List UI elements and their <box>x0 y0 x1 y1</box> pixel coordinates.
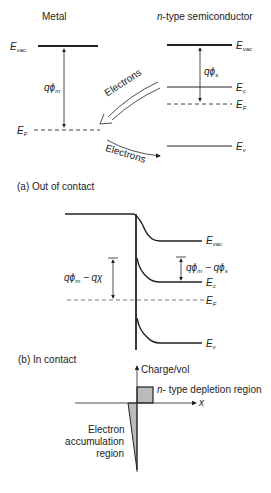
semi-ef-label: EF <box>236 100 246 111</box>
contact-evac-label: Evac <box>206 236 222 247</box>
semi-ev-label: Ev <box>236 142 246 153</box>
charge-axis-label: Charge/vol <box>141 365 189 375</box>
accumulation-label-line3: region <box>88 449 124 459</box>
semiconductor-title: n-type semiconductor <box>157 12 253 22</box>
barrier-height-label: qϕm − qχ <box>64 273 103 284</box>
caption-in-contact: (b) In contact <box>18 355 76 365</box>
contact-ec-label: Ec <box>206 278 216 289</box>
metal-ef-label: EF <box>17 126 27 137</box>
semi-evac-label: Evac <box>236 41 252 52</box>
metal-workfunction-label: qϕm <box>44 83 60 94</box>
x-axis-label: x <box>199 398 204 408</box>
metal-semiconductor-diagram: Metal n-type semiconductor Evac EF qϕm E… <box>0 0 271 493</box>
metal-title: Metal <box>42 12 66 22</box>
built-in-potential-label: qϕm − qϕs <box>186 263 228 274</box>
caption-out-of-contact: (a) Out of contact <box>17 182 94 192</box>
contact-ef-label: EF <box>206 296 216 307</box>
semiconductor-levels <box>167 45 232 146</box>
semi-ec-label: Ec <box>236 83 246 94</box>
metal-evac-label: Evac <box>10 42 26 53</box>
accumulation-label-line2: accumulation <box>60 437 124 447</box>
depletion-region-label: n- type depletion region <box>157 385 262 395</box>
semi-workfunction-label: qϕs <box>204 67 218 78</box>
accumulation-label-line1: Electron <box>88 425 124 435</box>
contact-ev-label: Ev <box>206 339 216 350</box>
